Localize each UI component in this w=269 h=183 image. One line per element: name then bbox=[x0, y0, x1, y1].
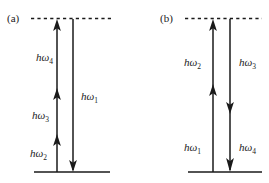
panel-b-label-h-omega-2: hω2 bbox=[184, 56, 201, 71]
panel-b-subscript-h-omega-2: 2 bbox=[197, 62, 201, 71]
figure-canvas: (a) hω4 hω3 hω2 hω1 (b) bbox=[0, 0, 269, 183]
panel-a-label: (a) bbox=[7, 12, 20, 25]
panel-b-label-h-omega-4: hω4 bbox=[239, 141, 256, 156]
panel-b: (b) hω2 hω3 hω1 hω4 bbox=[160, 12, 262, 172]
panel-a-label-h-omega-3: hω3 bbox=[32, 109, 49, 124]
panel-a-subscript-h-omega-3: 3 bbox=[45, 115, 49, 124]
panel-a-symbol-h-omega-3: hω bbox=[32, 109, 46, 121]
panel-b-symbol-h-omega-3: hω bbox=[239, 56, 253, 68]
panel-a-symbol-h-omega-1: hω bbox=[81, 90, 95, 102]
panel-b-label: (b) bbox=[160, 12, 173, 25]
panel-a-symbol-h-omega-2: hω bbox=[30, 147, 44, 159]
panel-a: (a) hω4 hω3 hω2 hω1 bbox=[7, 12, 113, 172]
panel-a-subscript-h-omega-1: 1 bbox=[94, 96, 98, 105]
panel-a-label-h-omega-1: hω1 bbox=[81, 90, 98, 105]
energy-level-diagram-figure: (a) hω4 hω3 hω2 hω1 (b) bbox=[0, 0, 269, 183]
panel-a-label-h-omega-4: hω4 bbox=[36, 51, 53, 66]
panel-b-label-h-omega-1: hω1 bbox=[184, 141, 201, 156]
panel-b-symbol-h-omega-2: hω bbox=[184, 56, 198, 68]
panel-b-subscript-h-omega-3: 3 bbox=[252, 62, 256, 71]
panel-b-label-h-omega-3: hω3 bbox=[239, 56, 256, 71]
panel-a-symbol-h-omega-4: hω bbox=[36, 51, 50, 63]
panel-b-subscript-h-omega-4: 4 bbox=[252, 147, 256, 156]
panel-a-subscript-h-omega-2: 2 bbox=[43, 153, 47, 162]
panel-a-label-h-omega-2: hω2 bbox=[30, 147, 47, 162]
panel-b-subscript-h-omega-1: 1 bbox=[197, 147, 201, 156]
panel-b-symbol-h-omega-4: hω bbox=[239, 141, 253, 153]
panel-a-subscript-h-omega-4: 4 bbox=[49, 57, 53, 66]
panel-b-symbol-h-omega-1: hω bbox=[184, 141, 198, 153]
